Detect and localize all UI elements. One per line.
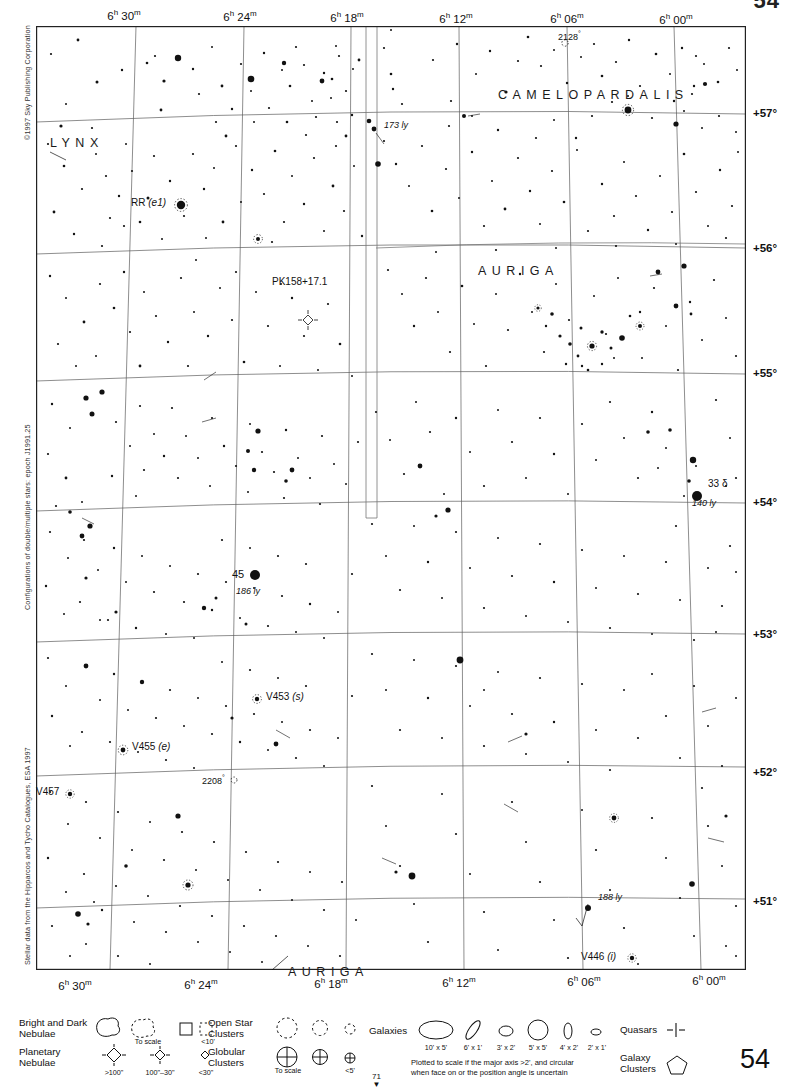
quasar-symbol-icon <box>664 1021 690 1039</box>
legend-bright-dark-nebulae-line1: Bright and Dark <box>19 1017 87 1028</box>
legend-galaxy-size-3: 5' x 5' <box>529 1043 547 1052</box>
ra-tick-label-6h06m: 6h 06m <box>550 11 584 25</box>
object-label-173ly: 173 ly <box>384 120 408 130</box>
dec-tick-label-plus51: +51° <box>753 895 777 907</box>
star-173ly <box>372 127 377 132</box>
dec-tick-label-plus55: +55° <box>753 367 777 379</box>
ra-tick-label-6h30m: 6h 30m <box>107 8 141 22</box>
dec-tick-label-plus52: +52° <box>753 766 777 778</box>
object-label-186ly: 186 ly <box>236 586 260 596</box>
legend-caption-lt30arcsec: <30" <box>199 1068 214 1077</box>
star-chart-page: 54 6h 30m 6h 24m 6h 18m 6h 12m 6h 06m 6h… <box>0 0 798 1087</box>
ra-tick-label-bottom-6h24m: 6h 24m <box>184 977 218 991</box>
dec-tick-label-plus54: +54° <box>753 496 777 508</box>
constellation-label-auriga-lower: AURIGA <box>288 965 369 979</box>
dec-tick-label-plus53: +53° <box>753 628 777 640</box>
legend-planetary-nebulae-line2: Nebulae <box>19 1057 56 1068</box>
star-45 <box>250 570 260 580</box>
galaxy-cluster-symbol-icon <box>664 1053 692 1077</box>
catalogue-source-note: Stellar data from the Hipparcos and Tych… <box>23 747 32 965</box>
legend-open-clusters-line2: Clusters <box>208 1028 244 1039</box>
legend-galaxy-clusters-line2: Clusters <box>620 1063 656 1074</box>
ra-tick-label-bottom-6h06m: 6h 06m <box>567 974 601 988</box>
legend-globular-clusters-line1: Globular <box>208 1046 245 1057</box>
object-label-RR: RR (e1) <box>131 197 166 208</box>
open-cluster-small-2 <box>185 882 190 887</box>
variable-star-V457 <box>68 792 72 796</box>
legend-bright-dark-nebulae-line2: Nebulae <box>19 1028 56 1039</box>
legend-galaxy-size-5: 2' x 1' <box>588 1043 606 1052</box>
object-label-45: 45 <box>232 568 244 580</box>
object-label-V457: V457 <box>36 786 59 797</box>
double-star-epoch-note: Configurations of double/multiple stars:… <box>23 424 32 610</box>
legend-caption-100-30arcsec: 100"–30" <box>145 1068 174 1077</box>
legend-caption-to-scale-globular: To scale <box>275 1066 301 1075</box>
ra-tick-label-bottom-6h00m: 6h 00m <box>692 973 726 987</box>
object-label-V446: V446 (i) <box>581 951 616 962</box>
constellation-label-lynx: LYNX <box>50 136 104 150</box>
galaxy-symbols-icon <box>418 1016 608 1042</box>
object-label-188ly: 188 ly <box>598 892 622 902</box>
legend-galaxy-clusters-line1: Galaxy <box>620 1052 651 1063</box>
legend-open-clusters-line1: Open Star <box>208 1017 253 1028</box>
ra-tick-label-6h00m: 6h 00m <box>659 12 693 26</box>
object-label-33-delta: 33 δ <box>708 478 727 489</box>
legend-quasars-title: Quasars <box>620 1024 657 1035</box>
dec-tick-label-plus56: +56° <box>753 242 777 254</box>
dec-tick-label-plus57: +57° <box>753 107 777 119</box>
legend-caption-lt5arcmin: <5' <box>345 1066 355 1075</box>
fold-continuation-marker: 71▼ <box>372 1073 381 1087</box>
legend-galaxy-note-line2: when face on or the position angle is un… <box>411 1068 568 1077</box>
legend-galaxies-title: Galaxies <box>369 1025 407 1036</box>
star-188ly <box>585 905 591 911</box>
legend-galaxy-size-2: 3' x 2' <box>497 1043 515 1052</box>
ra-tick-label-6h18m: 6h 18m <box>330 10 364 24</box>
open-cluster-small-1 <box>256 237 260 241</box>
star-RR <box>177 201 185 209</box>
variable-star-V455 <box>121 748 126 753</box>
ra-tick-label-bottom-6h30m: 6h 30m <box>58 978 92 992</box>
variable-star-V446 <box>630 956 634 960</box>
ra-tick-label-bottom-6h12m: 6h 12m <box>442 975 476 989</box>
object-label-2208: 2208° <box>202 774 225 786</box>
open-cluster-symbols-icon <box>272 1014 382 1040</box>
object-label-140ly: 140 ly <box>692 498 716 508</box>
ra-tick-label-6h12m: 6h 12m <box>439 11 473 25</box>
legend-galaxy-note-line1: Plotted to scale if the major axis >2', … <box>411 1058 574 1067</box>
ra-tick-label-6h24m: 6h 24m <box>223 9 257 23</box>
legend-galaxy-size-0: 10' x 5' <box>425 1043 447 1052</box>
legend-galaxy-size-1: 6' x 1' <box>464 1043 482 1052</box>
constellation-label-camelopardalis: CAMELOPARDALIS <box>498 88 689 102</box>
star-camelopardalis-bright <box>625 107 632 114</box>
page-number-bottom: 54 <box>740 1044 770 1075</box>
object-label-V453: V453 (s) <box>266 691 304 702</box>
constellation-label-auriga-upper: AURIGA <box>478 264 559 278</box>
page-number-top: 54 <box>754 0 780 14</box>
copyright-notice: ©1997 Sky Publishing Corporation <box>23 25 32 140</box>
object-label-V455: V455 (e) <box>132 741 170 752</box>
legend-globular-clusters-line2: Clusters <box>208 1057 244 1068</box>
star-bright-1 <box>690 457 696 463</box>
sky-map: LYNX CAMELOPARDALIS AURIGA AURIGA 2128° … <box>36 26 746 970</box>
map-legend: Bright and Dark Nebulae To scale <10' Pl… <box>0 1008 798 1087</box>
legend-galaxy-size-4: 4' x 2' <box>560 1043 578 1052</box>
legend-planetary-nebulae-line1: Planetary <box>19 1046 60 1057</box>
object-label-2128: 2128° <box>558 30 581 42</box>
object-label-PK158: PK158+17.1 <box>272 276 327 287</box>
legend-caption-gt100arcsec: >100" <box>105 1068 124 1077</box>
variable-star-V453 <box>255 697 259 701</box>
